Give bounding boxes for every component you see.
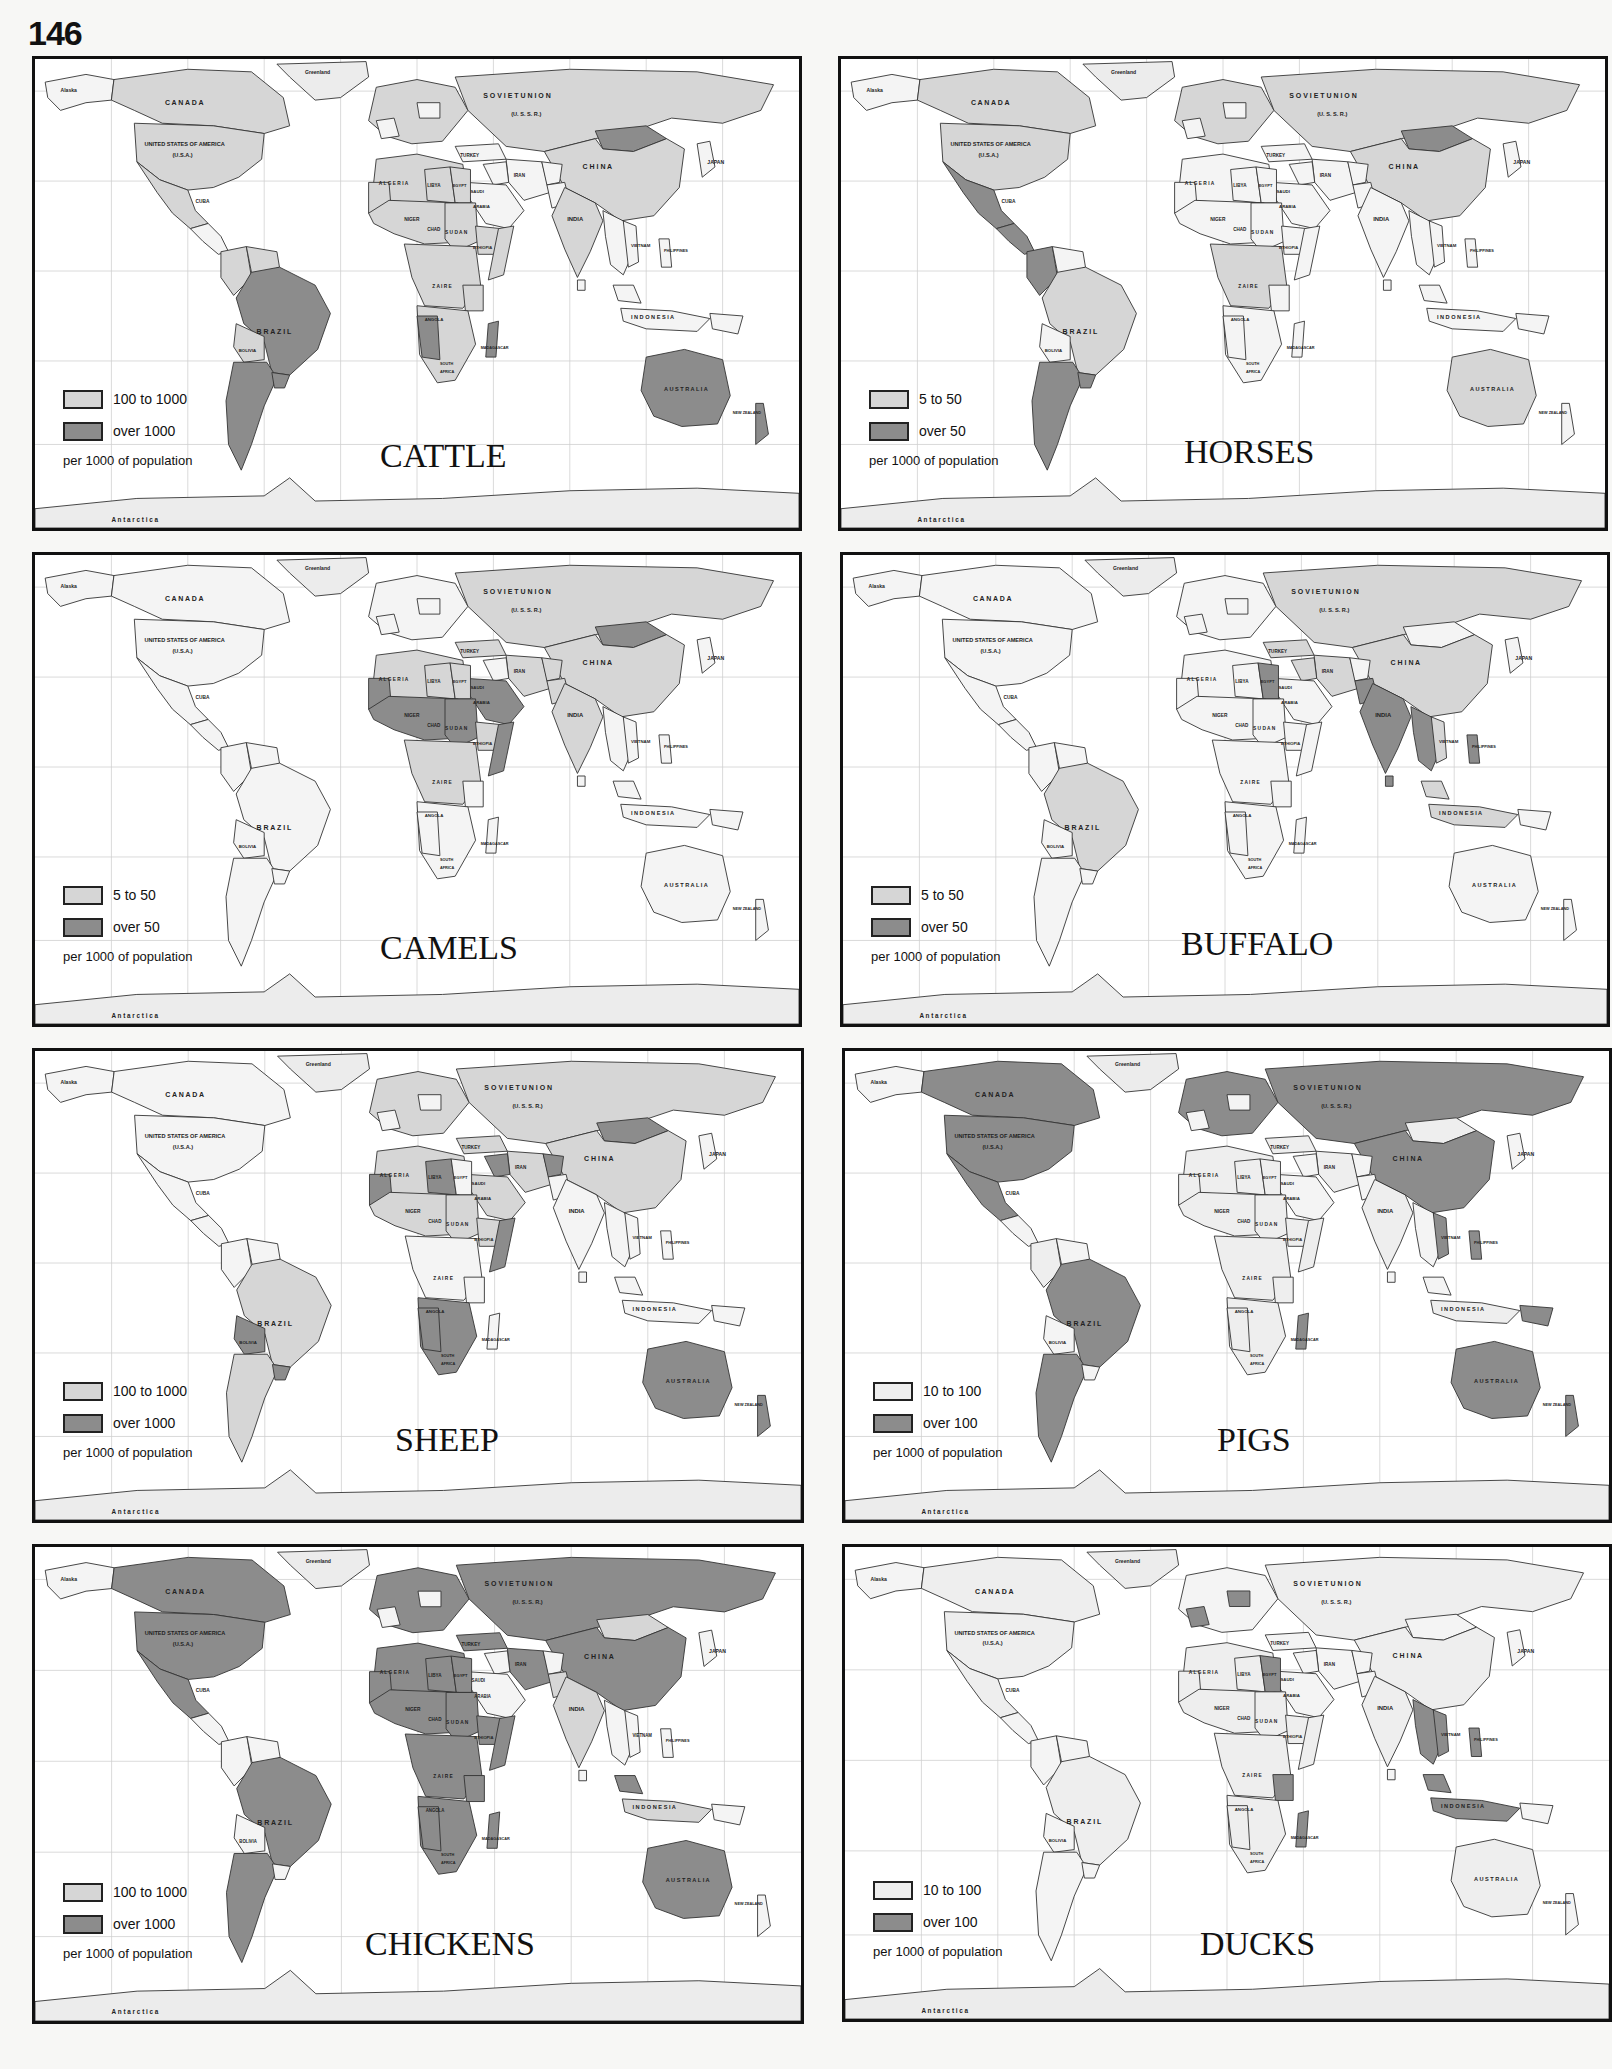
label-vietnam: VIETNAM (632, 1235, 652, 1240)
label-south_africa_1: SOUTH (1250, 1852, 1264, 1856)
region-argentina (226, 362, 277, 470)
label-arabia: ARABIA (473, 204, 491, 209)
legend-label: 10 to 100 (923, 1383, 981, 1399)
label-australia: A U S T R A L I A (666, 1877, 710, 1883)
region-uruguay (272, 869, 290, 884)
region-srilanka (579, 1272, 587, 1282)
region-newzealand (1562, 403, 1575, 444)
label-madagascar: MADAGASCAR (482, 1338, 510, 1342)
label-philippines: PHILIPPINES (1474, 1738, 1498, 1742)
label-niger: NIGER (1210, 217, 1226, 222)
label-egypt: EGYPT (454, 1175, 468, 1180)
region-madagascar (486, 321, 499, 357)
label-niger: NIGER (405, 1707, 421, 1712)
region-madagascar (486, 817, 499, 853)
label-japan: JAPAN (1513, 159, 1530, 165)
map-title: CATTLE (380, 437, 507, 475)
region-srilanka (579, 1770, 587, 1780)
label-sudan: S U D A N (1253, 726, 1276, 731)
label-australia: A U S T R A L I A (1474, 1377, 1518, 1383)
label-ethiopia: ETHIOPIA (1283, 1237, 1302, 1242)
label-madagascar: MADAGASCAR (482, 1837, 510, 1841)
label-chad: CHAD (427, 723, 441, 728)
label-australia: A U S T R A L I A (666, 1377, 710, 1383)
legend-label: 5 to 50 (113, 887, 156, 903)
label-brazil: B R A Z I L (257, 328, 292, 335)
label-iran: IRAN (1320, 173, 1332, 178)
region-argentina (1036, 1354, 1087, 1462)
region-malaysia (613, 781, 641, 799)
map-panel-pigs: Alaska Greenland C A N A D A UNITED STAT… (842, 1048, 1612, 1523)
label-japan: JAPAN (707, 655, 724, 661)
label-saudi: SAUDI (470, 685, 483, 690)
label-china: C H I N A (1389, 163, 1419, 170)
label-arabia: ARABIA (474, 1196, 492, 1201)
label-india: INDIA (1377, 1208, 1394, 1214)
label-bolivia: BOLIVIA (1049, 1838, 1067, 1843)
label-iran: IRAN (1324, 1662, 1336, 1667)
label-cuba: CUBA (196, 1688, 210, 1693)
region-newzealand (1564, 899, 1577, 940)
label-alaska: Alaska (868, 583, 885, 589)
label-ethiopia: ETHIOPIA (473, 741, 492, 746)
label-brazil: B R A Z I L (1067, 1320, 1102, 1327)
region-tanzania (464, 1277, 484, 1303)
map-legend: 10 to 100 over 100 per 1000 of populatio… (873, 1375, 1002, 1460)
label-antarctica: A n t a r c t i c a (111, 1012, 158, 1019)
label-alaska: Alaska (870, 1576, 887, 1582)
label-new_zealand: NEW ZEALAND (733, 411, 761, 415)
label-libya: LIBYA (1237, 1672, 1251, 1677)
region-tanzania (1273, 1775, 1293, 1801)
label-south_africa_2: AFRICA (1248, 866, 1263, 870)
label-chad: CHAD (428, 1717, 442, 1722)
label-south_africa_1: SOUTH (440, 362, 454, 366)
region-philippines (661, 1729, 674, 1758)
region-malaysia (1421, 781, 1449, 799)
label-australia: A U S T R A L I A (1474, 1876, 1518, 1882)
region-argentina (1036, 1852, 1087, 1961)
region-madagascar (1296, 1811, 1309, 1847)
label-zaire: Z A I R E (433, 1774, 453, 1779)
map-panel-chickens: Alaska Greenland C A N A D A UNITED STAT… (32, 1544, 804, 2024)
label-antarctica: A n t a r c t i c a (921, 2006, 968, 2013)
label-chad: CHAD (428, 1219, 442, 1224)
label-ussr: (U. S. S. R.) (511, 607, 541, 613)
label-south_africa_2: AFRICA (1246, 370, 1261, 374)
region-greenland (277, 62, 369, 101)
legend-swatch-light (63, 886, 103, 905)
label-greenland: Greenland (306, 1558, 331, 1564)
legend-unit-note: per 1000 of population (63, 949, 192, 964)
label-madagascar: MADAGASCAR (1291, 1338, 1319, 1342)
region-alaska (45, 1563, 114, 1599)
label-sudan: S U D A N (446, 1720, 469, 1725)
legend-unit-note: per 1000 of population (63, 453, 192, 468)
map-legend: 5 to 50 over 50 per 1000 of population (63, 879, 192, 964)
label-south_africa_2: AFRICA (441, 1362, 456, 1366)
label-turkey: TURKEY (1268, 649, 1287, 654)
legend-swatch-light (63, 1382, 103, 1401)
region-uruguay (272, 1864, 290, 1880)
label-indonesia: I N D O N E S I A (1437, 314, 1480, 320)
label-india: INDIA (1375, 712, 1392, 718)
region-argentina (1032, 362, 1083, 470)
region-indonesia (621, 308, 710, 331)
label-cuba: CUBA (195, 199, 209, 204)
label-angola: ANGOLA (425, 813, 445, 818)
region-poland (1227, 1095, 1250, 1110)
label-brazil: B R A Z I L (1065, 824, 1100, 831)
label-chad: CHAD (427, 227, 441, 232)
label-south_africa_2: AFRICA (1250, 1362, 1265, 1366)
region-malaysia (615, 1277, 643, 1295)
region-alaska (855, 1563, 924, 1599)
label-soviet_union: S O V I E T U N I O N (1293, 1084, 1361, 1091)
region-poland (1223, 103, 1246, 118)
label-ethiopia: ETHIOPIA (1283, 1734, 1302, 1739)
region-malaysia (613, 285, 641, 303)
legend-swatch-light (871, 886, 911, 905)
label-philippines: PHILIPPINES (1474, 1241, 1498, 1245)
legend-swatch-dark (63, 1915, 103, 1934)
label-egypt: EGYPT (453, 183, 467, 188)
region-uruguay (272, 373, 290, 388)
label-india: INDIA (569, 1706, 586, 1712)
label-indonesia: I N D O N E S I A (1441, 1803, 1484, 1809)
